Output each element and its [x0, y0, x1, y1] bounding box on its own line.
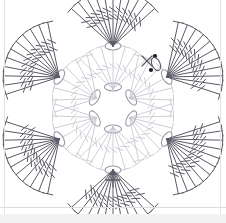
inner-fan-6-stitch-1	[53, 99, 96, 118]
petal-lower-right-slash-8-1	[181, 161, 190, 162]
petal-top-cap-2	[74, 0, 82, 5]
petal-upper-right-cap-3	[191, 26, 200, 31]
petal-upper-right-cap-5	[207, 37, 214, 45]
inner-fan-2-slash-4-1	[149, 83, 150, 92]
inner-fan-5-stitch-5	[53, 118, 97, 134]
petal-upper-left-slash-7-2	[27, 53, 36, 55]
petal-bottom-right-slash-11-2	[85, 190, 86, 199]
petal-lower-left-stem-2	[39, 139, 60, 191]
inner-fan-1-stitch-4	[108, 45, 118, 89]
petal-lower-left-cap-6	[8, 162, 13, 171]
inner-fan-4-cap-2	[132, 162, 141, 168]
inner-round-group	[52, 45, 173, 171]
petal-upper-left-stem-3	[3, 76, 59, 77]
petal-upper-left-cap-8	[19, 31, 27, 38]
petal-top-slash-8-2	[122, 8, 127, 15]
petal-upper-left-slash-8-1	[36, 55, 45, 56]
petal-lower-right-slash-7-2	[190, 161, 199, 163]
petal-lower-left-slash-6-2	[27, 153, 28, 162]
petal-bottom-right-slash-3-2	[126, 201, 135, 202]
petal-lower-right-slash-5-2	[197, 149, 204, 154]
petal-upper-right-stitch-11	[167, 77, 222, 99]
left-border-rule	[4, 0, 5, 214]
petal-upper-left-cap-9	[26, 26, 35, 31]
petal-bottom-right-slash-3-1	[123, 195, 132, 196]
petal-bottom-right-slash-10-2	[89, 194, 91, 202]
inner-fan-5-slash-1-1	[89, 137, 95, 143]
petal-upper-right-slash-11-2	[198, 86, 205, 91]
petal-lower-left-slash-11-1	[28, 127, 35, 132]
petal-lower-right-stitch-1	[167, 117, 222, 139]
inner-fan-4-slash-2-1	[121, 146, 130, 147]
inner-fan-4-stitch-4	[108, 127, 118, 171]
petal-lower-right-slash-9-1	[177, 164, 186, 165]
bottom-band	[0, 214, 226, 223]
petal-lower-right-cap-7	[207, 171, 214, 179]
inner-fan-5-stitch-3	[62, 118, 96, 153]
petal-upper-left-slash-7-1	[33, 57, 42, 59]
inner-fan-1-slash-5-1	[117, 64, 122, 71]
petal-upper-right-stem-2	[167, 25, 188, 77]
inner-fan-2-stem-3	[129, 67, 160, 99]
inner-fan-5-stitch-2	[71, 118, 96, 159]
petal-lower-right-cap-9	[191, 184, 200, 189]
inner-fan-6-slash-3-1	[71, 90, 78, 96]
inner-fan-2-stem-5	[129, 88, 172, 99]
petal-lower-left-slash-2-1	[46, 162, 51, 169]
diagram-canvas	[0, 0, 226, 223]
petal-upper-left-stem-1	[6, 77, 59, 94]
inner-fan-1-slash-1-1	[92, 73, 101, 75]
petal-lower-left-slash-6-1	[34, 149, 35, 158]
petal-upper-right-cap-6	[213, 44, 218, 53]
inner-fan-2-stitch-5	[129, 83, 173, 99]
petal-lower-left-slash-2-2	[44, 169, 49, 176]
petal-lower-left-stem-9	[3, 139, 59, 140]
petal-lower-left-slash-5-1	[37, 153, 38, 162]
petal-bottom-right-slash-8-1	[101, 194, 106, 201]
inner-fan-5-slash-3-1	[80, 130, 82, 139]
petal-lower-left-cap-4	[19, 178, 27, 185]
petal-top-stitch-10	[113, 0, 152, 46]
inner-fan-3-slash-3-1	[148, 120, 155, 126]
inner-fan-1-stem-3	[101, 47, 113, 89]
petal-top-slash-10-2	[134, 13, 136, 21]
petal-upper-left-slash-9-1	[40, 52, 49, 53]
petal-lower-left-stitch-11	[4, 117, 59, 139]
inner-fan-1-stem-7	[113, 60, 146, 89]
inner-fan-4-slash-6-1	[99, 142, 102, 150]
inner-fan-4-slash-5-1	[104, 146, 109, 153]
inner-fan-2-stitch-2	[129, 57, 154, 98]
petal-upper-left-stitch-1	[4, 77, 59, 99]
inner-fan-4-stem-1	[113, 127, 146, 156]
inner-fan-4-cap-6	[85, 162, 94, 168]
petal-lower-right-slash-5-1	[190, 147, 197, 152]
petal-bottom-right-slash-10-1	[94, 189, 96, 197]
inner-fan-2-slash-1-1	[131, 73, 137, 79]
inner-fan-3-stitch-5	[129, 118, 163, 153]
petal-upper-right-slash-2-2	[178, 39, 183, 46]
petal-upper-right-slash-5-2	[194, 49, 195, 58]
petal-lower-right-slash-9-2	[181, 170, 190, 171]
petal-top-slash-3-2	[91, 14, 100, 15]
petal-upper-left-cap-7	[13, 37, 20, 45]
petal-lower-right-stem-10	[167, 139, 188, 191]
petal-lower-left-cap-3	[26, 184, 35, 189]
inner-fan-4-stitch-5	[96, 127, 113, 171]
crochet-motif-svg	[0, 0, 226, 223]
inner-fan-2-slash-3-1	[145, 78, 147, 87]
petal-upper-right-slash-11-1	[191, 83, 198, 88]
petal-upper-right-slash-6-1	[191, 58, 192, 67]
inner-fan-4-stitch-3	[113, 127, 130, 171]
inner-fan-1-slash-7-1	[130, 69, 131, 78]
petal-upper-right-cap-4	[199, 31, 207, 38]
petal-upper-left-cap-6	[8, 44, 13, 53]
petal-top-slash-3-1	[95, 20, 104, 21]
petal-bottom-right-slash-11-1	[91, 185, 92, 194]
petal-bottom-right-stitch-10	[74, 170, 113, 217]
petal-upper-right-slash-5-1	[189, 54, 190, 63]
petal-upper-right-slash-4-1	[185, 51, 187, 60]
petal-lower-right-stem-1	[167, 122, 220, 139]
inner-fan-5-stem-3	[66, 118, 97, 150]
petal-upper-right-slash-4-2	[189, 45, 191, 54]
inner-fan-5-slash-4-1	[76, 125, 77, 134]
